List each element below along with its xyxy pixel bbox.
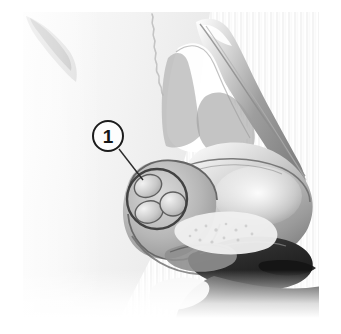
nose-illustration [0, 0, 341, 334]
callout-marker-1[interactable]: 1 [92, 120, 124, 152]
left-fade [23, 12, 103, 318]
right-inner-cartilage-lobule [160, 192, 186, 216]
anatomical-figure: 1 [0, 0, 341, 334]
callout-number-label: 1 [103, 127, 114, 146]
